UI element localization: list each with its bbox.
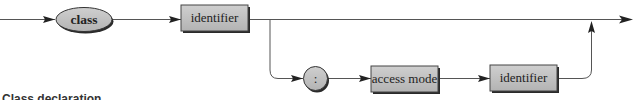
node-identifier: identifier bbox=[490, 65, 559, 93]
node-label: : bbox=[314, 71, 318, 86]
node-access-mode: access mode bbox=[371, 66, 440, 94]
node-identifier: identifier bbox=[181, 5, 250, 33]
figure-caption: Class declaration bbox=[2, 92, 101, 100]
node-label: access mode bbox=[372, 71, 438, 86]
node-colon: : bbox=[304, 67, 330, 93]
node-class: class bbox=[56, 8, 114, 34]
syntax-diagram: class identifier : access mode identifie… bbox=[0, 0, 633, 100]
node-label: identifier bbox=[500, 70, 548, 85]
node-label: class bbox=[71, 12, 98, 27]
node-label: identifier bbox=[191, 10, 239, 25]
